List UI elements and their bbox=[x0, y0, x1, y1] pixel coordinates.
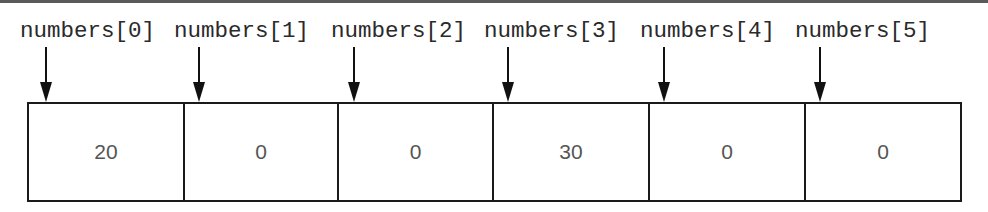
array-cell-2: 0 bbox=[339, 104, 492, 200]
cell-value-2: 0 bbox=[410, 140, 422, 164]
index-label-2: numbers[2] bbox=[331, 18, 466, 44]
index-label-4: numbers[4] bbox=[640, 18, 775, 44]
array-cell-4: 0 bbox=[650, 104, 804, 200]
array-cell-5: 0 bbox=[806, 104, 960, 200]
cell-value-3: 30 bbox=[559, 140, 582, 164]
array-cell-1: 0 bbox=[185, 104, 337, 200]
index-label-0: numbers[0] bbox=[20, 18, 155, 44]
index-label-5: numbers[5] bbox=[795, 18, 930, 44]
array-box: 20 0 0 30 0 0 bbox=[27, 102, 962, 202]
index-label-1: numbers[1] bbox=[174, 18, 309, 44]
cell-value-5: 0 bbox=[877, 140, 889, 164]
array-cell-3: 30 bbox=[494, 104, 648, 200]
array-cell-0: 20 bbox=[29, 104, 183, 200]
cell-value-0: 20 bbox=[94, 140, 117, 164]
cell-value-1: 0 bbox=[255, 140, 267, 164]
index-label-3: numbers[3] bbox=[484, 18, 619, 44]
top-border bbox=[0, 0, 988, 3]
cell-value-4: 0 bbox=[721, 140, 733, 164]
